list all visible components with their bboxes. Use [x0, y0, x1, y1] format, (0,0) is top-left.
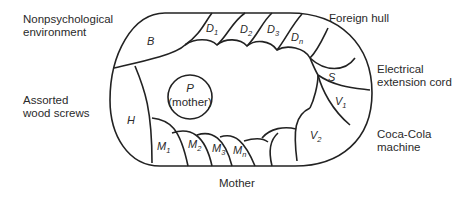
region-m3-label: M3 — [212, 142, 226, 157]
region-sub: 2 — [316, 135, 322, 144]
region-main: S — [328, 71, 336, 83]
person-caption: (mother) — [168, 96, 212, 108]
region-main: D — [240, 23, 248, 35]
boundary-v2-left — [295, 108, 310, 161]
region-main: D — [206, 22, 214, 34]
svg-text:M1: M1 — [157, 140, 170, 155]
region-sub: 1 — [166, 146, 170, 155]
person-symbol: P — [186, 82, 194, 94]
region-main: D — [267, 23, 275, 35]
region-v2-label: V2 — [310, 129, 322, 144]
region-sub: n — [299, 37, 303, 46]
region-dn-label: Dn — [291, 31, 303, 46]
region-m2-label: M2 — [188, 138, 202, 153]
svg-text:D1: D1 — [206, 22, 218, 37]
region-sub: 1 — [342, 101, 346, 110]
region-d3-label: D3 — [267, 23, 280, 38]
svg-text:M2: M2 — [188, 138, 202, 153]
svg-text:Dn: Dn — [291, 31, 303, 46]
region-sub: n — [242, 150, 246, 159]
boundary-v2-top — [310, 75, 318, 108]
region-sub: 2 — [247, 29, 253, 38]
region-h-label: H — [127, 114, 135, 126]
svg-text:D3: D3 — [267, 23, 280, 38]
region-b-label: B — [147, 35, 154, 47]
region-s-label: S — [328, 71, 336, 83]
svg-text:V2: V2 — [310, 129, 322, 144]
boundary-s-bottom — [318, 75, 370, 90]
svg-text:M3: M3 — [212, 142, 226, 157]
region-v1-label: V1 — [335, 95, 347, 110]
region-sub: 2 — [196, 144, 202, 153]
region-d2-label: D2 — [240, 23, 253, 38]
boundary-dn-edge — [310, 28, 328, 58]
boundary-m-scallops — [152, 118, 268, 166]
region-sub: 1 — [214, 28, 218, 37]
region-m1-label: M1 — [157, 140, 170, 155]
boundary-h — [135, 66, 152, 163]
region-sub: 3 — [275, 29, 280, 38]
svg-text:V1: V1 — [335, 95, 347, 110]
region-main: D — [291, 31, 299, 43]
region-d1-label: D1 — [206, 22, 218, 37]
boundary-unlabeled-cells — [262, 128, 296, 166]
region-main: B — [147, 35, 154, 47]
region-main: H — [127, 114, 135, 126]
life-space-diagram: P (mother) B D1 D2 D3 Dn S V1 V2 H M1 M2… — [0, 0, 470, 200]
boundary-s-top — [310, 58, 355, 69]
boundary-b — [114, 45, 185, 68]
svg-text:D2: D2 — [240, 23, 253, 38]
